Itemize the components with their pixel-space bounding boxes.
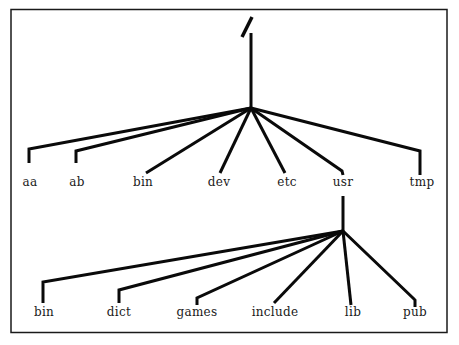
node-ab: ab xyxy=(69,175,84,189)
tree-edges xyxy=(0,0,459,345)
directory-tree-diagram: aa ab bin dev etc usr tmp bin dict games… xyxy=(0,0,459,345)
node-usr: usr xyxy=(333,175,354,189)
edge-usr xyxy=(251,108,343,175)
node-usr-bin: bin xyxy=(34,305,54,319)
edge-etc xyxy=(251,108,285,173)
node-usr-games: games xyxy=(177,305,218,319)
node-usr-include: include xyxy=(252,305,299,319)
node-tmp: tmp xyxy=(410,175,435,189)
node-usr-pub: pub xyxy=(403,305,427,319)
node-etc: etc xyxy=(277,175,297,189)
node-bin: bin xyxy=(133,175,153,189)
node-aa: aa xyxy=(23,175,38,189)
node-usr-dict: dict xyxy=(107,305,131,319)
node-usr-lib: lib xyxy=(345,305,361,319)
edge-usr-pub xyxy=(343,231,415,307)
edge-usr-lib xyxy=(343,231,351,305)
node-dev: dev xyxy=(208,175,230,189)
